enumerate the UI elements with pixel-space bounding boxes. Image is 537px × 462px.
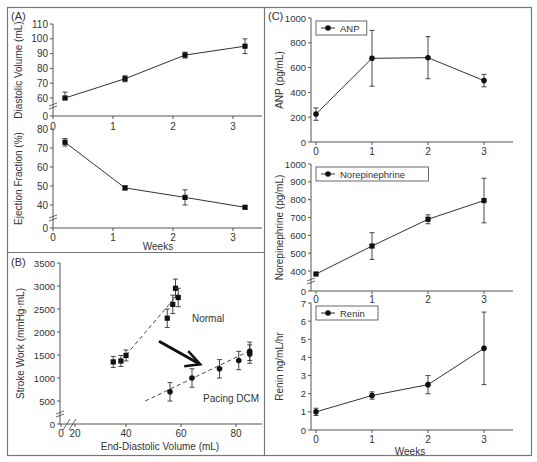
x-tick-label: 2	[425, 434, 431, 445]
chart-a-bottom: 040506070800123Ejection Fraction (%)Week…	[13, 124, 262, 253]
x-tick-label: 1	[369, 146, 375, 157]
data-marker-square	[176, 295, 181, 300]
y-tick-label: 90	[37, 48, 49, 59]
panel-label-b: (B)	[11, 256, 26, 268]
data-marker-circle	[369, 56, 375, 62]
data-marker-circle	[236, 358, 242, 364]
y-tick-label: 1000	[285, 159, 306, 170]
figure: (A) (B) (C) 0607080901001100123Diastolic…	[0, 0, 537, 462]
data-marker-square	[182, 52, 187, 57]
series-line	[65, 142, 245, 207]
x-tick-label: 0	[50, 232, 56, 243]
y-tick-label: 100	[31, 33, 48, 44]
panel-borders	[8, 8, 532, 456]
x-axis-title: End-Diastolic Volume (mL)	[101, 441, 219, 452]
charts-layer: 0607080901001100123Diastolic Volume (mL)…	[13, 13, 513, 458]
y-tick-label: 60	[37, 93, 49, 104]
y-tick-label: 1500	[34, 350, 55, 361]
series-line	[65, 46, 245, 98]
y-tick-label: 1000	[285, 13, 306, 24]
data-marker-square	[123, 353, 128, 358]
outer-border	[8, 8, 532, 456]
chart-a-top: 0607080901001100123Diastolic Volume (mL)	[13, 19, 262, 133]
y-tick-label: 500	[290, 248, 306, 259]
data-marker-circle	[481, 346, 487, 352]
x-tick-label: 0	[313, 146, 319, 157]
y-tick-label: 600	[290, 230, 306, 241]
y-tick-label: 2000	[34, 327, 55, 338]
data-marker-square	[62, 140, 67, 145]
x-tick-label: 2	[425, 294, 431, 305]
y-tick-label: 800	[290, 37, 306, 48]
chart-b: 0500100015002000250030003500020406080Str…	[15, 258, 262, 453]
legend-label: Renin	[340, 308, 365, 319]
data-marker-circle	[325, 310, 331, 316]
data-marker-circle	[247, 349, 253, 355]
y-tick-label: 0	[42, 223, 48, 234]
y-tick-label: 50	[37, 181, 49, 192]
y-tick-label: 0	[301, 137, 306, 148]
x-tick-label: 2	[170, 121, 176, 132]
y-tick-label: 800	[290, 194, 306, 205]
y-axis-title: Renin ng/mL/hr	[274, 332, 285, 401]
figure-canvas: (A) (B) (C) 0607080901001100123Diastolic…	[0, 0, 537, 462]
data-marker-circle	[167, 389, 173, 395]
y-tick-label: 4	[301, 352, 306, 363]
x-tick-label: 40	[120, 428, 132, 439]
y-tick-label: 0	[301, 286, 306, 297]
data-marker-circle	[369, 393, 375, 399]
y-tick-label: 1000	[34, 373, 55, 384]
data-marker-square	[182, 195, 187, 200]
y-tick-label: 80	[37, 63, 49, 74]
data-marker-square	[165, 316, 170, 321]
data-marker-circle	[481, 78, 487, 84]
x-tick-label: 0	[313, 294, 319, 305]
data-marker-circle	[425, 382, 431, 388]
panel-label-a: (A)	[11, 10, 26, 22]
data-marker-square	[122, 185, 127, 190]
data-marker-square	[369, 243, 374, 248]
data-marker-circle	[325, 171, 331, 177]
x-tick-label: 1	[110, 121, 116, 132]
annotation-label: Normal	[192, 313, 224, 324]
y-tick-label: 0	[42, 111, 48, 122]
data-marker-circle	[313, 111, 319, 117]
data-marker-square	[111, 359, 116, 364]
data-marker-square	[481, 198, 486, 203]
y-tick-label: 3	[301, 370, 306, 381]
chart-c-top: 020040060080010000123ANP (pg/mL)ANP	[274, 13, 513, 158]
y-tick-label: 70	[37, 78, 49, 89]
y-tick-label: 110	[32, 19, 48, 30]
x-tick-label: 60	[175, 428, 187, 439]
legend-label: ANP	[340, 23, 360, 34]
y-axis-title: Ejection Fraction (%)	[13, 132, 24, 225]
y-tick-label: 7	[301, 298, 306, 309]
data-marker-square	[122, 76, 127, 81]
y-tick-label: 60	[37, 162, 49, 173]
y-tick-label: 0	[301, 425, 306, 436]
data-marker-circle	[217, 366, 223, 372]
data-marker-circle	[425, 55, 431, 61]
x-tick-label: 0	[313, 434, 319, 445]
y-tick-label: 500	[39, 396, 55, 407]
y-tick-label: 200	[290, 112, 306, 123]
x-tick-label: 3	[481, 146, 487, 157]
y-tick-label: 2500	[34, 304, 55, 315]
y-tick-label: 2	[301, 388, 306, 399]
data-marker-square	[62, 95, 67, 100]
y-axis-title: ANP (pg/mL)	[274, 51, 285, 109]
panel-label-c: (C)	[268, 10, 283, 22]
y-tick-label: 5	[301, 334, 306, 345]
y-tick-label: 900	[290, 176, 306, 187]
data-marker-circle	[313, 409, 319, 415]
x-axis-title: Weeks	[143, 241, 173, 252]
annotation-label: Pacing DCM	[203, 393, 259, 404]
y-tick-label: 400	[290, 266, 306, 277]
x-tick-label: 1	[369, 294, 375, 305]
x-tick-label: 3	[481, 294, 487, 305]
y-tick-label: 700	[290, 212, 306, 223]
legend-label: Norepinephrine	[340, 169, 405, 180]
y-tick-label: 40	[37, 200, 49, 211]
y-tick-label: 400	[290, 87, 306, 98]
y-tick-label: 1	[301, 406, 306, 417]
